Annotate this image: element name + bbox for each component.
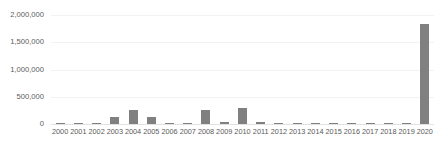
bar[interactable] — [165, 123, 174, 124]
y-axis-tick-label: 1,000,000 — [0, 66, 44, 74]
bar[interactable] — [256, 122, 265, 124]
x-axis-tick-label: 2006 — [160, 127, 178, 136]
bar-slot[interactable] — [306, 15, 324, 124]
x-axis-tick-label: 2009 — [215, 127, 233, 136]
x-axis-tick-label: 2020 — [416, 127, 434, 136]
bar-slot[interactable] — [379, 15, 397, 124]
bar[interactable] — [201, 110, 210, 124]
bar-slot[interactable] — [215, 15, 233, 124]
bar[interactable] — [183, 123, 192, 124]
bar[interactable] — [238, 108, 247, 124]
gridline — [51, 124, 434, 125]
bar-slot[interactable] — [361, 15, 379, 124]
bar-slot[interactable] — [87, 15, 105, 124]
bar-slot[interactable] — [288, 15, 306, 124]
x-axis-tick-label: 2001 — [69, 127, 87, 136]
x-axis-tick-label: 2016 — [343, 127, 361, 136]
x-axis-tick-label: 2014 — [306, 127, 324, 136]
bar[interactable] — [329, 123, 338, 124]
y-axis-tick-label: 0 — [0, 120, 44, 128]
x-axis-tick-label: 2011 — [252, 127, 270, 136]
bar-slot[interactable] — [343, 15, 361, 124]
y-axis-tick-label: 2,000,000 — [0, 11, 44, 19]
bar[interactable] — [274, 123, 283, 124]
bar-slot[interactable] — [252, 15, 270, 124]
x-axis-tick-label: 2000 — [51, 127, 69, 136]
x-axis-tick-label: 2018 — [379, 127, 397, 136]
bar-slot[interactable] — [325, 15, 343, 124]
bar-slot[interactable] — [69, 15, 87, 124]
y-axis-tick-label: 1,500,000 — [0, 38, 44, 46]
bar[interactable] — [147, 117, 156, 124]
x-axis-tick-label: 2005 — [142, 127, 160, 136]
bar-slot[interactable] — [106, 15, 124, 124]
y-axis-tick-label: 500,000 — [0, 93, 44, 101]
bar-slot[interactable] — [51, 15, 69, 124]
x-axis-tick-label: 2004 — [124, 127, 142, 136]
x-axis-tick-label: 2015 — [325, 127, 343, 136]
x-axis: 2000200120022003200420052006200720082009… — [51, 127, 434, 136]
bar[interactable] — [384, 123, 393, 124]
x-axis-tick-label: 2008 — [197, 127, 215, 136]
bar[interactable] — [347, 123, 356, 124]
bar-slot[interactable] — [179, 15, 197, 124]
bar[interactable] — [293, 123, 302, 124]
bar[interactable] — [56, 123, 65, 124]
chart-title — [0, 0, 439, 3]
bar-slot[interactable] — [160, 15, 178, 124]
x-axis-tick-label: 2010 — [233, 127, 251, 136]
bar[interactable] — [110, 117, 119, 124]
x-axis-tick-label: 2007 — [179, 127, 197, 136]
bar-slot[interactable] — [124, 15, 142, 124]
bar[interactable] — [420, 24, 429, 124]
bar-slot[interactable] — [270, 15, 288, 124]
bar-slot[interactable] — [416, 15, 434, 124]
x-axis-tick-label: 2003 — [106, 127, 124, 136]
bar[interactable] — [311, 123, 320, 124]
x-axis-tick-label: 2002 — [87, 127, 105, 136]
x-axis-tick-label: 2013 — [288, 127, 306, 136]
bar[interactable] — [74, 123, 83, 124]
x-axis-tick-label: 2012 — [270, 127, 288, 136]
bar-slot[interactable] — [233, 15, 251, 124]
bar-slot[interactable] — [397, 15, 415, 124]
x-axis-tick-label: 2017 — [361, 127, 379, 136]
bar[interactable] — [92, 123, 101, 124]
bar[interactable] — [129, 110, 138, 124]
x-axis-tick-label: 2019 — [397, 127, 415, 136]
bar-slot[interactable] — [197, 15, 215, 124]
bar[interactable] — [366, 123, 375, 124]
bar[interactable] — [402, 123, 411, 124]
bar-slot[interactable] — [142, 15, 160, 124]
bar-series — [51, 15, 434, 124]
bar[interactable] — [220, 122, 229, 124]
bar-chart: 0500,0001,000,0001,500,0002,000,000 2000… — [0, 0, 439, 144]
